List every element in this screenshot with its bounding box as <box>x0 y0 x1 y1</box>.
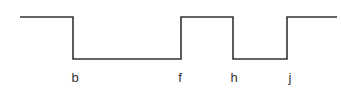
label-b: b <box>71 70 78 85</box>
label-f: f <box>178 70 182 85</box>
label-j: j <box>288 70 292 85</box>
waveform-svg: b f h j <box>0 0 341 91</box>
waveform-diagram: b f h j <box>0 0 341 91</box>
square-wave-line <box>20 17 337 59</box>
label-h: h <box>230 70 237 85</box>
